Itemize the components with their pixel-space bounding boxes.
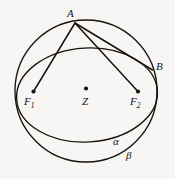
point-dot-F2 (136, 89, 140, 93)
point-label-z: Z (82, 96, 88, 107)
segment-A-F1 (34, 23, 76, 92)
point-label-f2-base: F (130, 95, 137, 107)
sphere-outline-circle (15, 20, 157, 162)
point-label-f2: F2 (130, 96, 140, 110)
geometry-figure: A B F1 Z F2 α β (0, 0, 175, 179)
point-label-f1-sub: 1 (31, 101, 35, 110)
curve-label-beta: β (126, 150, 131, 161)
figure-canvas (0, 0, 175, 179)
point-label-A: A (67, 8, 74, 19)
point-dot-Z (84, 86, 88, 90)
point-label-B: B (156, 61, 163, 72)
segment-A-F2 (75, 23, 138, 92)
point-label-f2-sub: 2 (137, 101, 141, 110)
point-dot-F1 (31, 89, 35, 93)
point-label-f1-base: F (24, 95, 31, 107)
curve-label-alpha: α (113, 136, 119, 147)
point-label-f1: F1 (24, 96, 34, 110)
